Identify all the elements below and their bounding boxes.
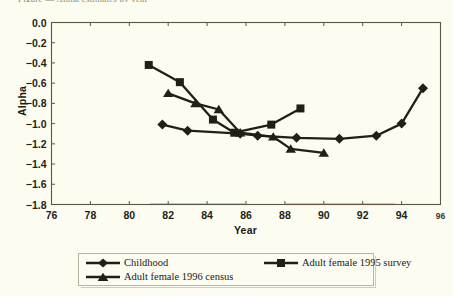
y-tick-label: −1.0 — [26, 118, 47, 130]
x-tick-label: 76 — [46, 209, 58, 221]
square-marker-icon — [263, 257, 299, 269]
x-tick-label: 80 — [123, 209, 135, 221]
x-tick-label: 86 — [240, 209, 252, 221]
legend-label: Childhood — [124, 257, 168, 269]
x-tick-label: 90 — [318, 209, 330, 221]
y-tick-label: −0.2 — [26, 37, 47, 49]
y-tick-label: −1.4 — [26, 158, 47, 170]
y-tick-label: −0.6 — [26, 77, 47, 89]
plot-frame — [52, 23, 441, 205]
diamond-marker-icon — [85, 257, 121, 269]
x-tick-label: 78 — [85, 209, 97, 221]
legend-label: Adult female 1995 survey — [302, 257, 411, 269]
x-axis-title: Year — [51, 224, 440, 236]
legend-item-adult-female-1996-census: Adult female 1996 census — [85, 270, 233, 284]
x-tick-label: 96 — [436, 211, 446, 221]
line-chart-plot: 0.0−0.2−0.4−0.6−0.8−1.0−1.2−1.4−1.6−1.87… — [0, 0, 453, 246]
x-tick-label: 88 — [279, 209, 291, 221]
legend-item-childhood: Childhood — [85, 256, 168, 270]
x-tick-label: 92 — [357, 209, 369, 221]
x-tick-label: 82 — [162, 209, 174, 221]
x-tick-label: 94 — [396, 209, 408, 221]
series-2 — [163, 89, 329, 157]
y-tick-label: 0.0 — [32, 17, 47, 29]
y-tick-label: −1.2 — [26, 138, 47, 150]
y-tick-label: −1.6 — [26, 178, 47, 190]
y-tick-label: −1.8 — [26, 199, 47, 211]
triangle-marker-icon — [85, 271, 121, 283]
x-tick-label: 84 — [201, 209, 213, 221]
legend-item-adult-female-1995-survey: Adult female 1995 survey — [263, 256, 411, 270]
y-tick-label: −0.8 — [26, 97, 47, 109]
chart-area: 0.0−0.2−0.4−0.6−0.8−1.0−1.2−1.4−1.6−1.87… — [0, 0, 453, 246]
chart-legend: Childhood Adult female 1995 survey Adult… — [78, 253, 374, 286]
y-axis-title: Alpha — [16, 71, 28, 131]
legend-label: Adult female 1996 census — [124, 271, 233, 283]
y-tick-label: −0.4 — [26, 57, 47, 69]
chart-page: Figure — Alpha estimates by year 0.0−0.2… — [0, 0, 453, 296]
